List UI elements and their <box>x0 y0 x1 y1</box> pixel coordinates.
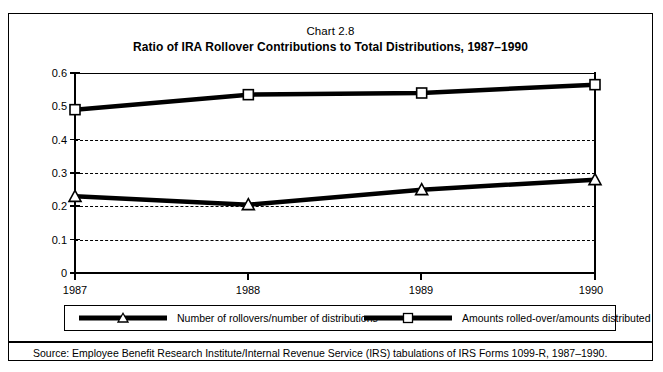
data-point-square <box>590 80 600 90</box>
y-axis-label-0.4: 0.4 <box>52 134 67 145</box>
x-axis-label-1989: 1989 <box>409 284 433 296</box>
series-line-amounts-rolled-over <box>70 80 600 115</box>
data-point-square <box>243 90 253 100</box>
y-axis-label-0.6: 0.6 <box>52 68 67 79</box>
plot-canvas: 0.6 0.5 0.4 0.3 0.2 0.1 0 1987 1988 198 <box>75 73 596 273</box>
x-tick-1989 <box>420 272 422 280</box>
source-divider <box>9 341 652 343</box>
triangle-marker-icon <box>77 311 169 325</box>
series-path <box>75 85 595 110</box>
y-axis-label-0.5: 0.5 <box>52 101 67 112</box>
legend-entry-amounts: Amounts rolled-over/amounts distributed <box>362 306 651 330</box>
x-axis-label-1988: 1988 <box>236 284 260 296</box>
x-tick-1988 <box>247 272 249 280</box>
data-point-square <box>417 88 427 98</box>
series-line-number-of-rollovers <box>69 174 601 210</box>
series-layer <box>75 73 595 273</box>
y-axis-label-0.3: 0.3 <box>52 168 67 179</box>
series-path <box>75 180 595 205</box>
legend-entry-rollovers: Number of rollovers/number of distributi… <box>77 306 378 330</box>
square-marker-icon <box>362 311 454 325</box>
legend-label-rollovers: Number of rollovers/number of distributi… <box>177 312 378 324</box>
y-axis-label-0: 0 <box>61 268 67 279</box>
source-note: Source: Employee Benefit Research Instit… <box>33 347 607 360</box>
data-point-square <box>70 105 80 115</box>
y-axis-label-0.2: 0.2 <box>52 201 67 212</box>
x-tick-1990 <box>594 272 596 280</box>
chart-legend: Number of rollovers/number of distributi… <box>64 305 616 331</box>
x-axis-label-1987: 1987 <box>63 284 87 296</box>
chart-figure: Chart 2.8 Ratio of IRA Rollover Contribu… <box>8 13 653 361</box>
x-axis-label-1990: 1990 <box>579 284 603 296</box>
legend-label-amounts: Amounts rolled-over/amounts distributed <box>462 312 651 324</box>
y-axis-label-0.1: 0.1 <box>52 234 67 245</box>
x-tick-1987 <box>74 272 76 280</box>
